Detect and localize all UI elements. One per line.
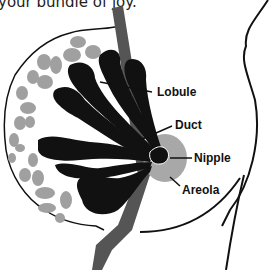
breast-anatomy-illustration [0,0,272,270]
body-contour-lower [226,175,244,270]
nipple [150,147,169,164]
label-lobule: Lobule [157,85,196,99]
label-duct: Duct [175,118,202,132]
label-nipple: Nipple [194,151,231,165]
label-areola: Areola [182,183,219,197]
